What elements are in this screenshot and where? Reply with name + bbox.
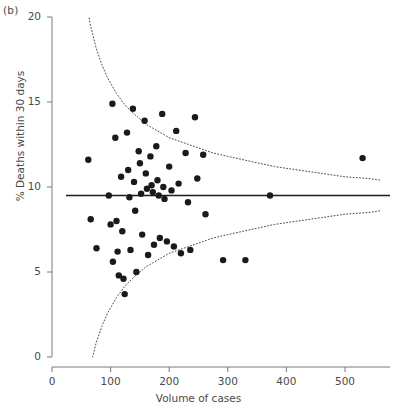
scatter-point [136, 148, 142, 154]
scatter-point [141, 118, 147, 124]
scatter-point [93, 245, 99, 251]
scatter-point [220, 257, 226, 263]
scatter-point [109, 101, 115, 107]
scatter-point [147, 153, 153, 159]
scatter-point [125, 167, 131, 173]
scatter-point [171, 243, 177, 249]
scatter-point [194, 175, 200, 181]
plot-canvas [0, 0, 402, 417]
scatter-point [110, 259, 116, 265]
scatter-point [138, 191, 144, 197]
scatter-point [119, 228, 125, 234]
scatter-point [131, 179, 137, 185]
scatter-point [132, 208, 138, 214]
x-tick-label: 0 [32, 375, 72, 387]
x-tick-label: 200 [149, 375, 189, 387]
x-tick-label: 400 [266, 375, 306, 387]
x-tick-label: 100 [91, 375, 131, 387]
scatter-point [168, 187, 174, 193]
scatter-point [85, 157, 91, 163]
scatter-point [118, 174, 124, 180]
scatter-point [139, 231, 145, 237]
scatter-point [114, 248, 120, 254]
funnel-plot-figure: (b) % Deaths within 30 days Volume of ca… [0, 0, 402, 417]
scatter-point [143, 170, 149, 176]
scatter-point [107, 221, 113, 227]
scatter-point [178, 250, 184, 256]
scatter-point [161, 196, 167, 202]
scatter-point [154, 177, 160, 183]
scatter-point [137, 160, 143, 166]
scatter-point [88, 216, 94, 222]
scatter-point [130, 106, 136, 112]
scatter-point [159, 111, 165, 117]
scatter-point [148, 182, 154, 188]
scatter-point [122, 291, 128, 297]
scatter-point [166, 163, 172, 169]
scatter-point [126, 194, 132, 200]
scatter-point [175, 180, 181, 186]
y-tick-label: 5 [15, 265, 41, 277]
scatter-point [120, 276, 126, 282]
scatter-point [145, 252, 151, 258]
x-tick-label: 500 [325, 375, 365, 387]
scatter-point [127, 247, 133, 253]
scatter-point [173, 128, 179, 134]
scatter-point [359, 155, 365, 161]
scatter-point [164, 238, 170, 244]
y-tick-label: 20 [15, 10, 41, 22]
scatter-point [112, 135, 118, 141]
scatter-point [153, 143, 159, 149]
y-tick-label: 0 [15, 350, 41, 362]
scatter-point [242, 257, 248, 263]
scatter-point [187, 247, 193, 253]
scatter-point [133, 269, 139, 275]
scatter-point [192, 114, 198, 120]
scatter-point [157, 235, 163, 241]
upper-control-limit [84, 0, 380, 180]
scatter-series [85, 101, 366, 298]
scatter-point [113, 218, 119, 224]
y-tick-label: 15 [15, 95, 41, 107]
y-tick-label: 10 [15, 180, 41, 192]
scatter-point [160, 184, 166, 190]
scatter-point [151, 242, 157, 248]
scatter-point [182, 150, 188, 156]
axes [52, 17, 390, 367]
scatter-point [185, 199, 191, 205]
scatter-point [202, 211, 208, 217]
scatter-point [156, 192, 162, 198]
x-tick-label: 300 [208, 375, 248, 387]
scatter-point [106, 192, 112, 198]
scatter-point [124, 129, 130, 135]
scatter-point [267, 192, 273, 198]
scatter-point [150, 189, 156, 195]
scatter-point [200, 152, 206, 158]
